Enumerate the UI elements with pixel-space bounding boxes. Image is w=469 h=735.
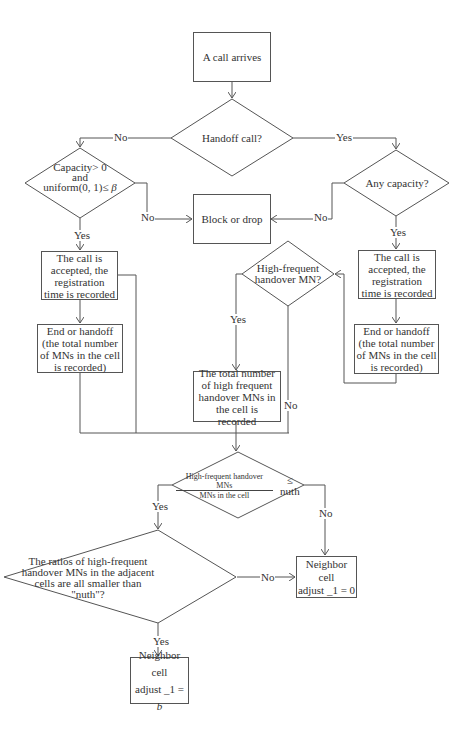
start-box: A call arrives [193, 32, 271, 82]
handoff-yes-label: Yes [335, 132, 353, 143]
block-drop-label: Block or drop [201, 213, 262, 225]
any-capacity-decision-text: Any capacity? [355, 174, 439, 192]
end-right-box: End or handoff (the total number of MNs … [354, 324, 439, 374]
block-or-drop-box: Block or drop [193, 194, 271, 244]
new-call-yes-label: Yes [73, 230, 91, 241]
handoff-decision-text: Handoff call? [190, 128, 274, 148]
neighbor-zero-line1: Neighbor cell [297, 558, 356, 584]
total-number-label: The total number of high frequent handov… [196, 367, 278, 427]
high-frequent-yes-label: Yes [229, 314, 247, 325]
neighbor-b-var: b [157, 700, 163, 712]
end-right-label: End or handoff (the total number of MNs … [356, 325, 437, 373]
any-capacity-no-label: No [313, 212, 328, 223]
any-capacity-yes-label: Yes [389, 227, 407, 238]
neighbor-b-line1: Neighbor cell [131, 647, 188, 681]
handoff-no-label: No [113, 132, 128, 143]
total-number-box: The total number of high frequent handov… [193, 371, 281, 422]
nuth-decision-text: High-frequent handover MNs MNs in the ce… [176, 476, 304, 496]
high-frequent-decision-text: High-frequent handover MN? [252, 262, 324, 286]
nuth-yes-label: Yes [151, 501, 169, 512]
ratios-decision-text: The ratios of high-frequent handover MNs… [18, 556, 158, 600]
end-left-label: End or handoff (the total number of MNs … [39, 325, 121, 373]
start-label: A call arrives [203, 51, 262, 63]
accept-left-box: The call is accepted, the registration t… [41, 251, 118, 300]
neighbor-zero-box: Neighbor cell adjust _1 = 0 [296, 556, 357, 598]
accept-right-box: The call is accepted, the registration t… [358, 250, 436, 299]
ratios-yes-label: Yes [152, 636, 170, 647]
new-call-decision-text: Capacity> 0 and uniform(0, 1)≤ β [30, 160, 130, 194]
accept-right-label: The call is accepted, the registration t… [361, 251, 433, 299]
neighbor-b-line2: adjust _1 = b [131, 681, 188, 715]
accept-left-label: The call is accepted, the registration t… [44, 252, 115, 300]
new-call-no-label: No [140, 212, 155, 223]
neighbor-zero-line2: adjust _1 = 0 [298, 584, 355, 597]
nuth-no-label: No [318, 508, 333, 519]
end-left-box: End or handoff (the total number of MNs … [37, 324, 123, 373]
high-frequent-no-label: No [283, 400, 298, 411]
neighbor-b-box: Neighbor cell adjust _1 = b [130, 657, 189, 704]
ratios-no-label: No [260, 572, 275, 583]
